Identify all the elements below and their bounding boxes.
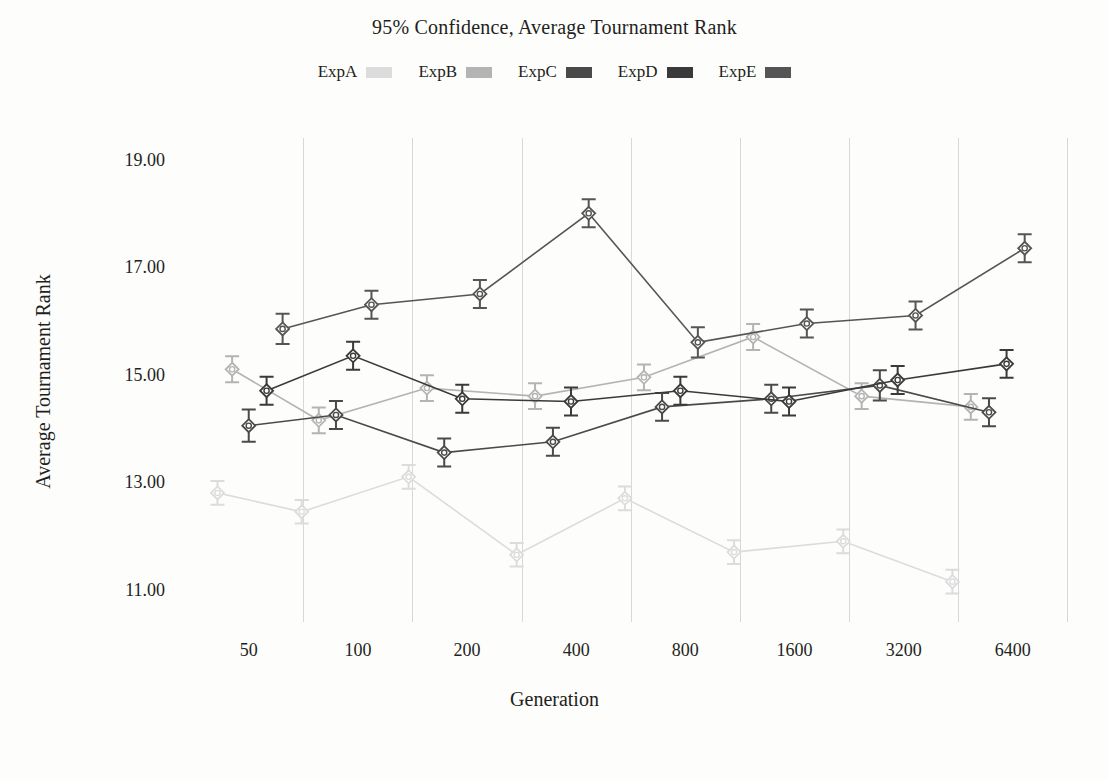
x-axis-tick-label: 100: [344, 640, 371, 661]
x-axis-tick-label: 3200: [886, 640, 922, 661]
x-axis-tick-label: 200: [454, 640, 481, 661]
data-point-marker: [800, 317, 813, 330]
x-axis-tick-label: 6400: [995, 640, 1031, 661]
data-point-marker: [402, 470, 415, 483]
y-axis-tick-label: 17.00: [125, 257, 166, 278]
data-point-marker: [242, 419, 255, 432]
data-point-marker: [946, 575, 959, 588]
series-expa: [210, 465, 959, 594]
legend-swatch-icon: [466, 67, 492, 78]
series-layer: [188, 138, 1070, 622]
chart-page: 95% Confidence, Average Tournament Rank …: [0, 0, 1109, 779]
legend-label: ExpC: [518, 62, 557, 82]
x-axis-tick-label: 1600: [777, 640, 813, 661]
series-line: [232, 337, 971, 420]
series-expc: [242, 370, 996, 466]
legend-label: ExpD: [618, 62, 658, 82]
legend-swatch-icon: [667, 67, 693, 78]
legend-swatch-icon: [566, 67, 592, 78]
data-point-marker: [211, 486, 224, 499]
y-axis-tick-label: 11.00: [125, 579, 165, 600]
data-point-marker: [456, 392, 469, 405]
series-line: [249, 385, 989, 452]
x-axis-tick-label: 400: [563, 640, 590, 661]
series-line: [283, 213, 1025, 342]
legend-item-expb[interactable]: ExpB: [418, 62, 492, 82]
legend-label: ExpA: [318, 62, 358, 82]
y-axis-title: Average Tournament Rank: [32, 232, 55, 532]
data-point-marker: [546, 435, 559, 448]
data-point-marker: [637, 371, 650, 384]
y-axis-tick-group: 19.0017.0015.0013.0011.00: [0, 0, 188, 779]
data-point-marker: [618, 492, 631, 505]
data-point-marker: [226, 363, 239, 376]
data-point-marker: [1018, 242, 1031, 255]
data-point-marker: [295, 505, 308, 518]
x-axis-tick-label: 800: [672, 640, 699, 661]
series-expe: [276, 199, 1032, 357]
data-point-marker: [909, 309, 922, 322]
data-point-marker: [674, 384, 687, 397]
data-point-marker: [656, 400, 669, 413]
data-point-marker: [276, 322, 289, 335]
data-point-marker: [510, 548, 523, 561]
legend-item-expc[interactable]: ExpC: [518, 62, 592, 82]
y-axis-tick-label: 13.00: [125, 472, 166, 493]
data-point-marker: [347, 349, 360, 362]
legend-label: ExpE: [719, 62, 757, 82]
data-point-marker: [837, 535, 850, 548]
legend-swatch-icon: [765, 67, 791, 78]
y-axis-tick-label: 15.00: [125, 364, 166, 385]
data-point-marker: [329, 408, 342, 421]
data-point-marker: [728, 546, 741, 559]
data-point-marker: [1000, 357, 1013, 370]
legend-item-expe[interactable]: ExpE: [719, 62, 792, 82]
legend-item-expd[interactable]: ExpD: [618, 62, 693, 82]
legend-label: ExpB: [418, 62, 457, 82]
data-point-marker: [565, 395, 578, 408]
data-point-marker: [365, 298, 378, 311]
legend-item-expa[interactable]: ExpA: [318, 62, 393, 82]
data-point-marker: [873, 379, 886, 392]
data-point-marker: [438, 446, 451, 459]
data-point-marker: [891, 374, 904, 387]
data-point-marker: [982, 406, 995, 419]
x-axis-title: Generation: [0, 688, 1109, 711]
x-axis-tick-label: 50: [240, 640, 258, 661]
data-point-marker: [473, 287, 486, 300]
legend-swatch-icon: [366, 67, 392, 78]
data-point-marker: [855, 390, 868, 403]
y-axis-tick-label: 19.00: [125, 149, 166, 170]
plot-area: [188, 138, 1070, 622]
